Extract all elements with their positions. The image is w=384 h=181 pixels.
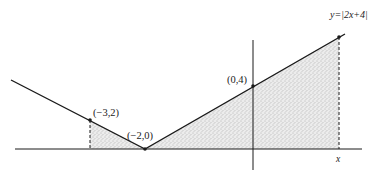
point-label-neg3-2: (−3,2) xyxy=(93,107,120,119)
point-x-end xyxy=(337,35,341,39)
point-0-4 xyxy=(251,84,255,88)
point-neg2-0 xyxy=(143,147,147,151)
absolute-value-area-diagram: (−3,2) (−2,0) (0,4) y=|2x+4| x xyxy=(0,0,384,181)
point-neg3-2 xyxy=(88,118,92,122)
x-marker-label: x xyxy=(335,154,341,164)
point-label-0-4: (0,4) xyxy=(227,74,248,86)
function-label: y=|2x+4| xyxy=(329,9,368,20)
point-label-neg2-0: (−2,0) xyxy=(127,130,154,142)
